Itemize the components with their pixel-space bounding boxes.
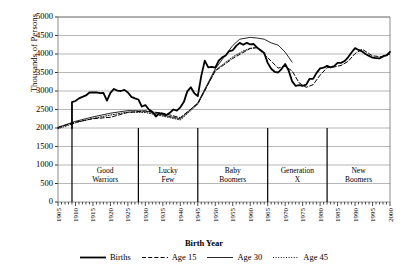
- y-tick-label: 0: [10, 196, 53, 206]
- x-tick-label: 1910: [72, 208, 80, 222]
- legend-swatch: [207, 254, 233, 261]
- y-tick-label: 2500: [10, 104, 53, 114]
- y-tick-label: 4000: [10, 48, 53, 58]
- legend-item-age-30: Age 30: [207, 252, 262, 262]
- x-tick-label: 1995: [369, 208, 377, 222]
- legend-swatch: [273, 254, 299, 261]
- x-tick-label: 1905: [55, 208, 63, 222]
- x-tick-label: 1935: [159, 208, 167, 222]
- generation-label-line2: Boomers: [324, 175, 394, 184]
- y-tick-label: 1500: [10, 141, 53, 151]
- legend-item-age-45: Age 45: [273, 252, 328, 262]
- x-tick-label: 1920: [107, 208, 115, 222]
- legend-label: Age 45: [303, 252, 328, 262]
- x-tick-label: 1950: [212, 208, 220, 222]
- series-line-age-30: [58, 37, 292, 127]
- generation-label-line1: New: [324, 166, 394, 175]
- x-tick-label: 1930: [142, 208, 150, 222]
- generation-label-line1: Baby: [198, 166, 268, 175]
- x-tick-label: 1965: [264, 208, 272, 222]
- generation-label: NewBoomers: [324, 166, 394, 184]
- generation-label-line2: Few: [133, 175, 203, 184]
- legend-item-age-15: Age 15: [142, 252, 197, 262]
- chart-legend: BirthsAge 15Age 30Age 45: [0, 252, 408, 262]
- x-tick-label: 1960: [247, 208, 255, 222]
- legend-label: Age 15: [172, 252, 197, 262]
- x-tick-label: 1925: [124, 208, 132, 222]
- generation-label: GenerationX: [262, 166, 332, 184]
- chart-figure: Thousands of Persons Birth Year BirthsAg…: [0, 0, 408, 277]
- y-tick-label: 3000: [10, 85, 53, 95]
- y-tick-label: 4500: [10, 30, 53, 40]
- x-tick-label: 1915: [89, 208, 97, 222]
- y-tick-label: 1000: [10, 159, 53, 169]
- generation-label: GoodWarriors: [70, 166, 140, 184]
- x-tick-label: 1985: [334, 208, 342, 222]
- y-tick-label: 500: [10, 178, 53, 188]
- x-tick-label: 1940: [177, 208, 185, 222]
- x-tick-label: 1990: [352, 208, 360, 222]
- generation-label-line2: Warriors: [70, 175, 140, 184]
- legend-label: Age 30: [237, 252, 262, 262]
- y-tick-label: 2000: [10, 122, 53, 132]
- legend-item-births: Births: [80, 252, 131, 262]
- x-tick-label: 1970: [282, 208, 290, 222]
- generation-label-line2: Boomers: [198, 175, 268, 184]
- legend-swatch: [80, 254, 106, 261]
- generation-label-line2: X: [262, 175, 332, 184]
- x-axis-title: Birth Year: [0, 238, 408, 248]
- x-tick-label: 2000: [387, 208, 395, 222]
- line-chart-canvas: [0, 0, 408, 277]
- x-tick-label: 1955: [229, 208, 237, 222]
- legend-swatch: [142, 254, 168, 261]
- legend-label: Births: [110, 252, 131, 262]
- x-tick-label: 1975: [299, 208, 307, 222]
- x-tick-label: 1945: [194, 208, 202, 222]
- generation-label-line1: Good: [70, 166, 140, 175]
- y-tick-label: 5000: [10, 11, 53, 21]
- generation-label-line1: Generation: [262, 166, 332, 175]
- series-line-age-45: [58, 47, 257, 128]
- x-tick-label: 1980: [317, 208, 325, 222]
- generation-label: BabyBoomers: [198, 166, 268, 184]
- generation-label-line1: Lucky: [133, 166, 203, 175]
- generation-label: LuckyFew: [133, 166, 203, 184]
- y-tick-label: 3500: [10, 67, 53, 77]
